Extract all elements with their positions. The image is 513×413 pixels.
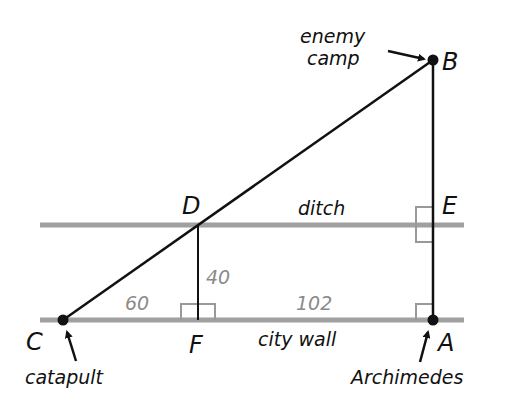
archimedes-label: Archimedes — [349, 366, 464, 388]
point-C-dot — [58, 315, 69, 326]
label-D: D — [182, 192, 200, 220]
measurement-CF: 60 — [125, 292, 149, 314]
ditch-label: ditch — [298, 197, 345, 219]
diagram-svg: B D E C F A enemy camp ditch city wall c… — [0, 0, 513, 413]
camp-label: camp — [307, 47, 360, 69]
archimedes-catapult-diagram: B D E C F A enemy camp ditch city wall c… — [0, 0, 513, 413]
catapult-arrow-icon — [67, 332, 76, 361]
point-A-dot — [428, 315, 439, 326]
label-C: C — [26, 328, 43, 356]
segment-CB — [63, 60, 433, 320]
measurement-FA: 102 — [296, 292, 332, 314]
catapult-label: catapult — [25, 366, 105, 388]
label-B: B — [442, 48, 458, 76]
enemy-camp-arrow-icon — [388, 51, 424, 59]
label-E: E — [442, 192, 458, 220]
city-wall-label: city wall — [258, 328, 337, 350]
label-A: A — [436, 329, 454, 357]
label-F: F — [189, 331, 204, 359]
measurement-DF: 40 — [206, 266, 230, 288]
enemy-label: enemy — [300, 25, 366, 47]
archimedes-arrow-icon — [420, 332, 428, 362]
point-B-dot — [428, 55, 439, 66]
